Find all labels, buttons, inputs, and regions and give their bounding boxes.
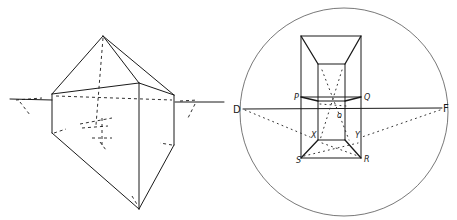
right-figure-box-in-circle: D F P Q R S X Y o [233, 8, 449, 216]
label-D: D [233, 104, 241, 115]
inner-frame [318, 64, 345, 140]
label-S: S [296, 156, 301, 165]
viewing-circle [240, 8, 448, 216]
label-F: F [443, 103, 449, 114]
label-Y: Y [355, 131, 361, 140]
label-Q: Q [364, 93, 370, 102]
label-P: P [294, 93, 299, 102]
horizon-line-DF [243, 108, 442, 109]
diagram-canvas: D F P Q R S X Y o [0, 0, 457, 220]
label-R: R [364, 155, 370, 164]
left-figure-prism [10, 36, 224, 209]
label-O: o [337, 111, 342, 120]
label-X: X [310, 131, 317, 140]
